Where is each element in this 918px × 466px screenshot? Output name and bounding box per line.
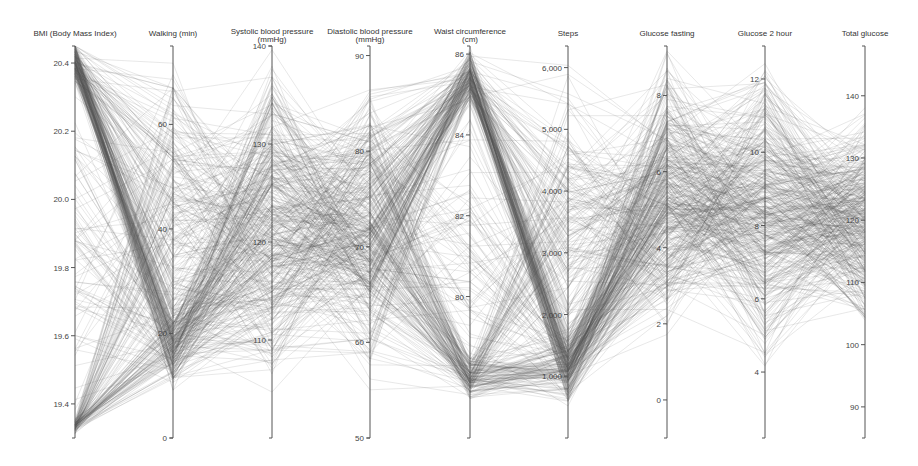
tick-label: 120 — [253, 238, 267, 247]
tick-label: 4,000 — [542, 187, 563, 196]
tick-label: 100 — [846, 341, 860, 350]
tick-label: 20.2 — [53, 127, 69, 136]
tick-label: 90 — [355, 52, 364, 61]
tick-label: 20 — [158, 329, 167, 338]
tick-label: 0 — [657, 396, 662, 405]
tick-label: 4 — [755, 368, 760, 377]
axis-unit: (mmHg) — [356, 35, 385, 44]
axis-title: Glucose 2 hour — [738, 29, 793, 38]
tick-label: 80 — [355, 147, 364, 156]
tick-label: 120 — [846, 216, 860, 225]
tick-label: 19.8 — [53, 264, 69, 273]
tick-label: 110 — [846, 278, 859, 287]
tick-label: 1,000 — [542, 372, 563, 381]
tick-label: 19.4 — [53, 400, 69, 409]
tick-label: 82 — [455, 212, 464, 221]
tick-label: 130 — [253, 140, 267, 149]
tick-label: 50 — [355, 434, 364, 443]
tick-label: 140 — [253, 42, 267, 51]
axis-title: Glucose fasting — [639, 29, 694, 38]
tick-label: 140 — [846, 92, 860, 101]
tick-label: 8 — [755, 222, 760, 231]
axis-unit: (cm) — [462, 35, 478, 44]
tick-label: 86 — [455, 50, 464, 59]
tick-label: 20.0 — [53, 195, 69, 204]
parallel-coordinates-chart: BMI (Body Mass Index)19.419.619.820.020.… — [0, 0, 918, 466]
tick-label: 8 — [657, 91, 662, 100]
tick-label: 90 — [850, 403, 859, 412]
tick-label: 4 — [657, 244, 662, 253]
tick-label: 10 — [750, 148, 759, 157]
tick-label: 5,000 — [542, 125, 563, 134]
tick-label: 60 — [158, 120, 167, 129]
tick-label: 19.6 — [53, 332, 69, 341]
tick-label: 60 — [355, 338, 364, 347]
tick-label: 0 — [163, 434, 168, 443]
tick-label: 3,000 — [542, 249, 563, 258]
axis-title: BMI (Body Mass Index) — [33, 29, 116, 38]
tick-label: 80 — [455, 293, 464, 302]
tick-label: 70 — [355, 243, 364, 252]
tick-label: 6 — [657, 168, 662, 177]
tick-label: 84 — [455, 131, 464, 140]
tick-label: 40 — [158, 225, 167, 234]
tick-label: 12 — [750, 75, 759, 84]
axis-title: Total glucose — [842, 29, 889, 38]
axis-title: Steps — [558, 29, 578, 38]
tick-label: 20.4 — [53, 59, 69, 68]
axis-title: Walking (min) — [149, 29, 198, 38]
tick-label: 130 — [846, 154, 860, 163]
tick-label: 2,000 — [542, 311, 563, 320]
tick-label: 2 — [657, 320, 662, 329]
tick-label: 6 — [755, 295, 760, 304]
tick-label: 110 — [253, 336, 266, 345]
tick-label: 6,000 — [542, 64, 563, 73]
